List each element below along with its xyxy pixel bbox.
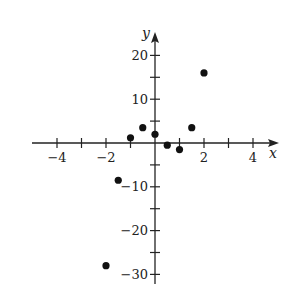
data-point (151, 131, 158, 138)
y-tick-label: 20 (131, 48, 148, 63)
data-point (115, 177, 122, 184)
axes (32, 32, 279, 284)
data-point (176, 146, 183, 153)
x-axis-label: x (269, 145, 277, 161)
y-axis-label: y (141, 25, 151, 41)
x-tick-label: 2 (200, 150, 208, 165)
scatter-plot: −4−2242010−10−20−30 x y (0, 0, 297, 297)
y-tick-label: 10 (131, 92, 148, 107)
data-point (164, 142, 171, 149)
x-tick-label: −2 (96, 150, 115, 165)
data-point (200, 69, 207, 76)
data-point (139, 124, 146, 131)
x-tick-label: 4 (249, 150, 257, 165)
x-tick-label: −4 (47, 150, 66, 165)
y-tick-label: −20 (121, 223, 148, 238)
data-point (127, 134, 134, 141)
y-tick-label: −30 (121, 267, 148, 282)
data-point (188, 124, 195, 131)
y-tick-label: −10 (121, 179, 148, 194)
data-point (102, 262, 109, 269)
